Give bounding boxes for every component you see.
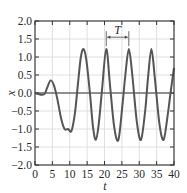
svg-text:15: 15 bbox=[81, 168, 93, 180]
svg-text:−1.5: −1.5 bbox=[11, 141, 32, 153]
chart: 0510152025303540 −2.0−1.5−1.0−0.50.00.51… bbox=[0, 0, 187, 193]
svg-text:1.5: 1.5 bbox=[18, 33, 33, 45]
svg-text:35: 35 bbox=[151, 168, 163, 180]
svg-text:−2.0: −2.0 bbox=[11, 159, 32, 171]
svg-text:40: 40 bbox=[168, 168, 180, 180]
svg-text:30: 30 bbox=[134, 168, 146, 180]
svg-text:2.0: 2.0 bbox=[18, 15, 33, 27]
svg-text:25: 25 bbox=[116, 168, 128, 180]
svg-text:0.0: 0.0 bbox=[18, 87, 33, 99]
svg-text:0: 0 bbox=[32, 168, 38, 180]
svg-text:10: 10 bbox=[64, 168, 76, 180]
svg-text:5: 5 bbox=[50, 168, 56, 180]
period-annotation: T bbox=[106, 23, 129, 46]
svg-text:−1.0: −1.0 bbox=[11, 123, 32, 135]
svg-text:1.0: 1.0 bbox=[18, 51, 33, 63]
x-axis-label: t bbox=[103, 179, 107, 193]
svg-text:−0.5: −0.5 bbox=[11, 105, 32, 117]
svg-text:0.5: 0.5 bbox=[18, 69, 33, 81]
period-label: T bbox=[114, 23, 122, 37]
y-axis-label: x bbox=[4, 90, 18, 97]
